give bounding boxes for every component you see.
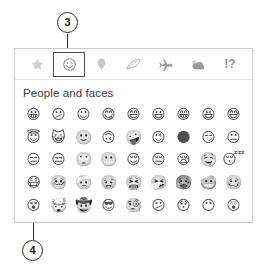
emoji-row: 😷 🤒 🤕 🤢 🤮 🤧 🥵 🥶 🥴: [21, 171, 246, 194]
emoji-cell[interactable]: 😕: [146, 194, 171, 215]
emoji-category-balloon-button[interactable]: [85, 52, 117, 77]
emoji-grid: 😀 😕 ☺ 😋 😄 😃 😁 😆 😅 😇 😺 🙂 🙃 🤪 😉 🌑 😏: [15, 103, 252, 216]
emoji-cell[interactable]: 😲: [221, 194, 246, 215]
emoji-cell[interactable]: 😵: [21, 194, 46, 215]
symbols-icon: !?: [224, 58, 235, 70]
emoji-category-symbols-button[interactable]: !?: [214, 52, 246, 77]
emoji-cell[interactable]: 😴: [221, 149, 246, 170]
emoji-cell[interactable]: 😕: [46, 104, 71, 125]
emoji-category-smiley-button[interactable]: [53, 52, 85, 77]
emoji-cell[interactable]: 😀: [21, 104, 46, 125]
emoji-cell[interactable]: 🙄: [71, 149, 96, 170]
callout-badge-4: 4: [22, 240, 43, 261]
emoji-cell[interactable]: 😃: [146, 104, 171, 125]
emoji-cell[interactable]: 🧐: [121, 194, 146, 215]
emoji-cell[interactable]: 😎: [96, 194, 121, 215]
callout-badge-3: 3: [57, 12, 78, 33]
emoji-row: 😵 🤯 🤠 😎 🧐 😕 😯 😶 😲: [21, 193, 246, 216]
star-icon: [30, 57, 45, 72]
emoji-cell[interactable]: 😋: [96, 104, 121, 125]
emoji-cell[interactable]: 🌑: [171, 126, 196, 147]
emoji-cell[interactable]: 😅: [221, 104, 246, 125]
emoji-category-pizza-button[interactable]: [117, 52, 149, 77]
emoji-cell[interactable]: 🙃: [96, 126, 121, 147]
emoji-cell[interactable]: 🥵: [171, 172, 196, 193]
emoji-cell[interactable]: 😬: [96, 149, 121, 170]
emoji-cell[interactable]: 😶: [196, 194, 221, 215]
emoji-cell[interactable]: 🥶: [196, 172, 221, 193]
emoji-category-airplane-button[interactable]: [150, 52, 182, 77]
emoji-cell[interactable]: 😐: [221, 126, 246, 147]
emoji-cell[interactable]: 😷: [21, 172, 46, 193]
emoji-cell[interactable]: 😑: [21, 149, 46, 170]
balloon-icon: [94, 57, 109, 72]
emoji-cell[interactable]: 😌: [121, 149, 146, 170]
emoji-cell[interactable]: 🤯: [46, 194, 71, 215]
emoji-row: 😑 😒 🙄 😬 😌 😔 😪 🤤 😴: [21, 148, 246, 171]
emoji-cell[interactable]: 😔: [146, 149, 171, 170]
smiley-icon: [62, 57, 77, 72]
emoji-cell[interactable]: ☺: [71, 104, 96, 125]
emoji-cell[interactable]: 😁: [171, 104, 196, 125]
emoji-cell[interactable]: 🤪: [121, 126, 146, 147]
emoji-row: 😇 😺 🙂 🙃 🤪 😉 🌑 😏 😐: [21, 126, 246, 149]
cloud-icon: [189, 57, 206, 72]
emoji-cell[interactable]: 😆: [196, 104, 221, 125]
airplane-icon: [158, 57, 174, 72]
emoji-cell[interactable]: 🥴: [221, 172, 246, 193]
emoji-category-bar: !?: [15, 49, 252, 80]
emoji-row: 😀 😕 ☺ 😋 😄 😃 😁 😆 😅: [21, 103, 246, 126]
emoji-cell[interactable]: 😪: [171, 149, 196, 170]
emoji-category-star-button[interactable]: [21, 52, 53, 77]
callout-badge-4-label: 4: [29, 245, 35, 256]
emoji-cell[interactable]: 😉: [146, 126, 171, 147]
screenshot-canvas: 3 4: [0, 0, 259, 277]
emoji-cell[interactable]: 😺: [46, 126, 71, 147]
pizza-icon: [125, 57, 142, 72]
emoji-cell[interactable]: 😇: [21, 126, 46, 147]
emoji-cell[interactable]: 🤤: [196, 149, 221, 170]
callout-badge-3-label: 3: [64, 17, 70, 28]
emoji-cell[interactable]: 🤒: [46, 172, 71, 193]
emoji-cell[interactable]: 😯: [171, 194, 196, 215]
emoji-cell[interactable]: 😏: [196, 126, 221, 147]
emoji-cell[interactable]: 😄: [121, 104, 146, 125]
emoji-cell[interactable]: 😒: [46, 149, 71, 170]
emoji-picker-panel: !? People and faces 😀 😕 ☺ 😋 😄 😃 😁 😆 😅 😇 …: [14, 48, 253, 223]
emoji-cell[interactable]: 🤧: [146, 172, 171, 193]
emoji-cell[interactable]: 🙂: [71, 126, 96, 147]
emoji-category-cloud-button[interactable]: [182, 52, 214, 77]
emoji-cell[interactable]: 🤠: [71, 194, 96, 215]
emoji-cell[interactable]: 🤮: [121, 172, 146, 193]
emoji-cell[interactable]: 🤢: [96, 172, 121, 193]
emoji-section-heading: People and faces: [15, 80, 252, 103]
emoji-cell[interactable]: 🤕: [71, 172, 96, 193]
